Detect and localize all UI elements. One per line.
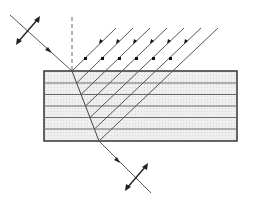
- polarization-dot-markers: [84, 57, 172, 60]
- incident-ray: [10, 15, 72, 71]
- layered-slab-diagram: [0, 0, 255, 203]
- ray-direction-arrow-icon: [114, 157, 120, 163]
- polarization-arrow-icon: [16, 16, 40, 45]
- reflected-ray-arrow-icons: [99, 39, 188, 44]
- slab: [44, 71, 237, 141]
